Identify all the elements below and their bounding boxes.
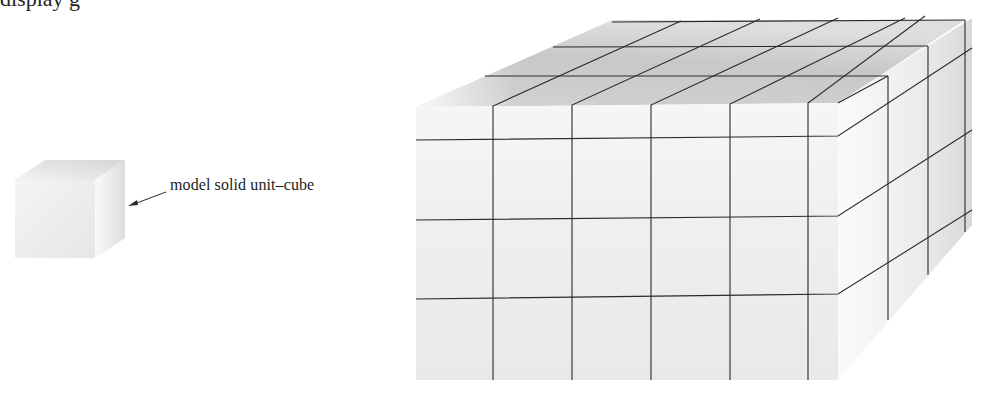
large-cube-front-face xyxy=(416,103,838,380)
small-cube-front-face xyxy=(15,180,95,258)
unit-cube-figure: display g xyxy=(0,0,993,398)
cube-illustration xyxy=(0,0,993,398)
arrow-pointing-to-cube xyxy=(128,192,166,206)
large-subdivided-cube xyxy=(416,16,972,380)
small-unit-cube xyxy=(15,160,125,258)
small-cube-label: model solid unit–cube xyxy=(170,176,314,194)
